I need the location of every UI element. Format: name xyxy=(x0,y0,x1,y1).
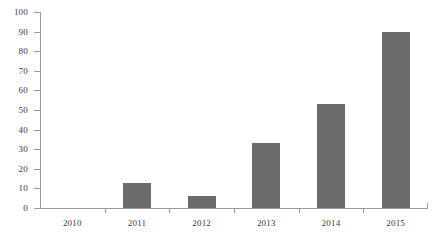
y-axis-tick-label: 60 xyxy=(2,86,28,95)
y-axis-tick-label: 90 xyxy=(2,28,28,37)
x-axis-tick xyxy=(234,208,235,213)
x-axis-tick xyxy=(169,208,170,213)
x-axis-tick xyxy=(299,208,300,213)
x-axis-tick-label: 2013 xyxy=(234,218,298,228)
bar xyxy=(317,104,345,208)
bar xyxy=(252,143,280,208)
bar xyxy=(188,196,216,208)
bar xyxy=(382,32,410,208)
bar-chart: 0102030405060708090100 20102011201220132… xyxy=(0,0,440,247)
x-axis-tick-label: 2011 xyxy=(105,218,169,228)
y-axis-tick-label: 0 xyxy=(2,204,28,213)
bar xyxy=(123,183,151,208)
y-axis-tick-label: 10 xyxy=(2,184,28,193)
x-axis-tick xyxy=(105,208,106,213)
y-axis-tick xyxy=(34,208,40,209)
x-axis-tick-label: 2012 xyxy=(170,218,234,228)
y-axis-tick-label: 70 xyxy=(2,67,28,76)
x-axis-tick-label: 2010 xyxy=(40,218,104,228)
y-axis-tick-label: 50 xyxy=(2,106,28,115)
y-axis-tick-label: 100 xyxy=(2,8,28,17)
y-axis-tick-label: 20 xyxy=(2,165,28,174)
x-axis-tick xyxy=(363,208,364,213)
x-axis-tick-label: 2014 xyxy=(299,218,363,228)
y-axis-tick-label: 80 xyxy=(2,47,28,56)
x-axis-tick-label: 2015 xyxy=(364,218,428,228)
plot-area xyxy=(40,12,428,208)
y-axis-tick-label: 40 xyxy=(2,126,28,135)
y-axis-tick-label: 30 xyxy=(2,145,28,154)
